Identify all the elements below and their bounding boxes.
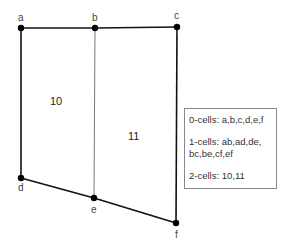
vertex-label-f: f [175, 230, 178, 240]
edge-be [94, 28, 95, 198]
legend-2-cells: 2-cells: 10,11 [189, 170, 272, 182]
vertex-label-a: a [18, 13, 24, 23]
face-label-10: 10 [50, 96, 62, 107]
vertex-b [92, 25, 98, 31]
vertex-c [174, 24, 180, 30]
vertex-d [18, 175, 24, 181]
legend-1-cells-line1: 1-cells: ab,ad,de, [189, 136, 272, 148]
vertex-label-c: c [174, 11, 179, 21]
vertex-f [173, 220, 179, 226]
cells-legend-box: 0-cells: a,b,c,d,e,f 1-cells: ab,ad,de, … [184, 108, 277, 189]
vertex-e [91, 195, 97, 201]
vertex-a [18, 25, 24, 31]
face-label-11: 11 [128, 131, 139, 142]
edge-ef [94, 198, 176, 223]
vertex-label-b: b [92, 13, 98, 23]
edge-bc [95, 27, 177, 28]
vertex-label-e: e [91, 205, 97, 215]
legend-1-cells-line2: bc,be,cf,ef [189, 148, 272, 160]
legend-0-cells: 0-cells: a,b,c,d,e,f [189, 114, 272, 126]
edge-cf [176, 27, 177, 223]
edge-de [21, 178, 94, 198]
vertex-label-d: d [18, 183, 24, 193]
